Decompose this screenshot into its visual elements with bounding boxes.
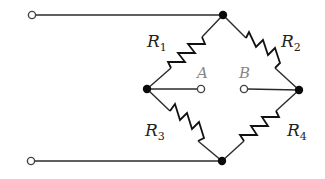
node-right <box>295 86 303 94</box>
resistor-r2 <box>223 15 299 90</box>
label-r3: R3 <box>144 120 165 143</box>
node-top <box>219 11 227 19</box>
label-r4: R4 <box>286 120 307 143</box>
terminal-a <box>197 85 204 92</box>
input-terminal-top <box>28 11 35 18</box>
label-r1: R1 <box>146 31 167 54</box>
terminal-b <box>240 85 247 92</box>
label-terminal-a: A <box>195 64 208 82</box>
node-bottom <box>218 157 226 165</box>
input-terminal-bottom <box>27 157 34 164</box>
bridge-circuit-diagram: R1 R2 R3 R4 A B <box>0 0 325 179</box>
resistor-r1 <box>147 15 223 89</box>
resistor-r3 <box>147 89 222 161</box>
lead-b-to-right <box>247 89 299 90</box>
node-left <box>143 85 151 93</box>
label-r2: R2 <box>280 31 301 54</box>
label-terminal-b: B <box>238 64 250 82</box>
